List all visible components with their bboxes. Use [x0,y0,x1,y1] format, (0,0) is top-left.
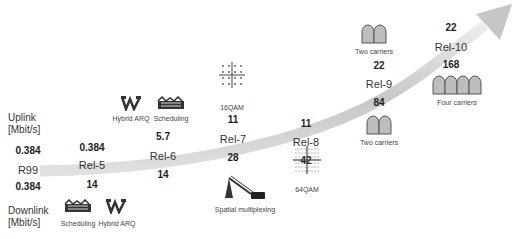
rel6-downlink: 14 [145,169,181,180]
rel7-mimo-caption: Spatial multiplexing [208,206,282,213]
four-carriers-icon [432,75,482,95]
r99-uplink: 0.384 [10,145,46,156]
r99-downlink: 0.384 [10,181,46,192]
hybrid-arq-icon [105,198,127,214]
rel8-64qam-caption: 64QAM [289,186,325,193]
rel7-label: Rel-7 [215,133,251,145]
rel10-label: Rel-10 [431,41,471,53]
scheduling-icon [63,199,93,214]
16qam-constellation-icon [219,62,245,88]
rel6-uplink: 5.7 [145,131,181,142]
rel5-downlink: 14 [74,179,110,190]
r99-label: R99 [10,164,46,176]
rel9-uplink: 22 [361,60,397,71]
rel7-16qam-caption: 16QAM [214,104,250,111]
uplink-text: Uplink [8,112,40,124]
rel6-scheduling-caption: Scheduling [150,115,192,122]
two-carriers-icon [366,115,392,135]
rel9-ul-carriers-caption: Two carriers [352,48,396,55]
uplink-label: Uplink [Mbit/s] [8,112,40,136]
rel10-uplink: 22 [431,22,471,33]
scheduling-icon [156,96,186,111]
two-carriers-icon [361,24,387,44]
downlink-label: Downlink [Mbit/s] [8,205,49,229]
rel10-carriers-caption: Four carriers [432,99,482,106]
downlink-text: Downlink [8,205,49,217]
rel8-uplink: 11 [288,118,324,129]
rel7-downlink: 28 [215,152,251,163]
rel7-uplink: 11 [215,114,251,125]
uplink-unit: [Mbit/s] [8,124,40,136]
64qam-constellation-icon [293,146,321,174]
rel5-scheduling-caption: Scheduling [57,220,99,227]
rel9-downlink: 84 [361,97,397,108]
rel6-harq-caption: Hybrid ARQ [111,115,151,122]
rel5-label: Rel-5 [74,159,110,171]
spatial-multiplexing-icon [221,172,267,202]
downlink-unit: [Mbit/s] [8,217,49,229]
rel9-dl-carriers-caption: Two carriers [357,139,401,146]
rel10-downlink: 168 [431,59,471,70]
rel5-uplink: 0.384 [74,142,110,153]
rel5-harq-caption: Hybrid ARQ [97,220,137,227]
hybrid-arq-icon [120,95,142,111]
rel6-label: Rel-6 [145,150,181,162]
rel9-label: Rel-9 [361,78,397,90]
